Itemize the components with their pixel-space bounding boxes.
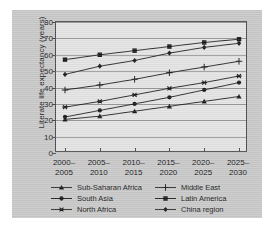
data-point-diamond xyxy=(202,45,206,50)
data-point-star xyxy=(132,93,137,97)
legend-item: North Africa xyxy=(50,204,154,215)
legend-label: Latin America xyxy=(181,194,226,203)
legend-label: North Africa xyxy=(77,205,116,214)
chart-legend: Sub-Saharan AfricaMiddle EastSouth AsiaL… xyxy=(50,182,255,215)
data-point-triangle xyxy=(236,94,241,99)
legend-item: China region xyxy=(154,204,255,215)
data-point-star xyxy=(59,208,64,212)
legend-item: Sub-Saharan Africa xyxy=(50,182,154,193)
data-point-star xyxy=(201,81,206,85)
series-line xyxy=(65,76,239,107)
data-point-square xyxy=(98,53,102,57)
data-point-star xyxy=(167,86,172,90)
series-lines xyxy=(56,22,248,153)
legend-item: South Asia xyxy=(50,193,154,204)
data-point-plus xyxy=(131,76,138,83)
data-point-circle xyxy=(63,115,67,119)
plot-area: 01020304050607080 xyxy=(55,21,247,152)
data-point-diamond xyxy=(132,58,136,63)
x-axis-tick-label: 2020–2025 xyxy=(192,158,214,177)
data-point-circle xyxy=(132,102,136,106)
data-point-circle xyxy=(59,196,63,200)
data-point-plus xyxy=(62,87,69,94)
data-point-star xyxy=(62,105,67,109)
data-point-square xyxy=(63,57,67,61)
data-point-circle xyxy=(237,80,241,84)
data-point-square xyxy=(163,196,167,200)
legend-label: South Asia xyxy=(77,194,113,203)
series-line xyxy=(65,97,239,120)
data-point-plus xyxy=(201,64,208,71)
legend-item: Middle East xyxy=(154,182,255,193)
data-point-plus xyxy=(97,82,104,89)
data-point-plus xyxy=(166,70,173,77)
legend-marker-diamond xyxy=(154,205,177,214)
data-point-plus xyxy=(162,184,169,191)
y-axis-tick-mark xyxy=(52,153,56,154)
data-point-star xyxy=(97,99,102,103)
legend-marker-star xyxy=(50,205,73,214)
data-point-square xyxy=(202,40,206,44)
legend-marker-square xyxy=(154,194,177,203)
x-axis-tick-label: 2000–2005 xyxy=(53,158,75,177)
legend-label: China region xyxy=(181,205,224,214)
series-line xyxy=(65,43,239,74)
figure-panel: Literate life expectancy (years) 0102030… xyxy=(12,10,262,218)
data-point-star xyxy=(236,74,241,78)
data-point-diamond xyxy=(237,41,241,46)
data-point-circle xyxy=(98,108,102,112)
x-axis-tick-label: 2010–2015 xyxy=(122,158,144,177)
data-point-diamond xyxy=(98,64,102,69)
series-line xyxy=(65,61,239,90)
legend-marker-triangle xyxy=(50,183,73,192)
legend-marker-plus xyxy=(154,183,177,192)
data-point-diamond xyxy=(163,207,167,212)
x-axis-tick-label: 2005–2010 xyxy=(88,158,110,177)
legend-item: Latin America xyxy=(154,193,255,204)
x-axis-tick-label: 2015–2020 xyxy=(157,158,179,177)
data-point-plus xyxy=(236,58,243,65)
legend-label: Sub-Saharan Africa xyxy=(77,183,142,192)
data-point-diamond xyxy=(63,72,67,77)
data-point-diamond xyxy=(167,51,171,56)
legend-label: Middle East xyxy=(181,183,220,192)
data-point-square xyxy=(132,48,136,52)
data-point-circle xyxy=(167,95,171,99)
x-axis-tick-label: 2025–2030 xyxy=(227,158,249,177)
data-point-square xyxy=(167,44,171,48)
legend-marker-circle xyxy=(50,194,73,203)
data-point-circle xyxy=(202,88,206,92)
